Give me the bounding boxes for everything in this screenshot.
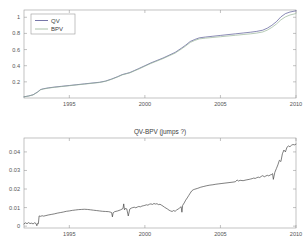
panel-title: QV-BPV (jumps ?) bbox=[134, 128, 186, 136]
x-tick-label: 1995 bbox=[63, 231, 75, 237]
y-tick-label: 0.04 bbox=[9, 149, 20, 155]
y-tick-label: 1 bbox=[17, 14, 20, 20]
x-tick-label: 2005 bbox=[214, 231, 226, 237]
y-tick-label: 0.2 bbox=[12, 79, 20, 85]
y-tick-label: 0.01 bbox=[9, 205, 20, 211]
y-tick-label: 0 bbox=[17, 223, 20, 229]
y-tick-label: 0.03 bbox=[9, 167, 20, 173]
x-tick-label: 2000 bbox=[139, 231, 151, 237]
x-tick-label: 2010 bbox=[290, 101, 302, 107]
chart-panel-qv-bpv-levels: 19952000200520100.20.40.60.81QVBPV bbox=[0, 0, 308, 118]
figure-container: 19952000200520100.20.40.60.81QVBPV QV-BP… bbox=[0, 0, 308, 250]
legend-label-bpv: BPV bbox=[51, 26, 63, 32]
y-tick-label: 0.6 bbox=[12, 47, 20, 53]
top-panel-svg: 19952000200520100.20.40.60.81QVBPV bbox=[0, 0, 308, 118]
y-tick-label: 0.4 bbox=[12, 63, 20, 69]
bottom-panel-svg: QV-BPV (jumps ?)199520002005201000.010.0… bbox=[0, 118, 308, 250]
y-tick-label: 0.02 bbox=[9, 186, 20, 192]
series-line-qv-bpv bbox=[24, 144, 296, 226]
axes-frame bbox=[24, 138, 296, 228]
x-tick-label: 2005 bbox=[214, 101, 226, 107]
y-tick-label: 0.8 bbox=[12, 30, 20, 36]
x-tick-label: 2010 bbox=[290, 231, 302, 237]
x-tick-label: 1995 bbox=[63, 101, 75, 107]
x-tick-label: 2000 bbox=[139, 101, 151, 107]
chart-panel-qv-minus-bpv: QV-BPV (jumps ?)199520002005201000.010.0… bbox=[0, 118, 308, 250]
legend-label-qv: QV bbox=[51, 18, 60, 24]
